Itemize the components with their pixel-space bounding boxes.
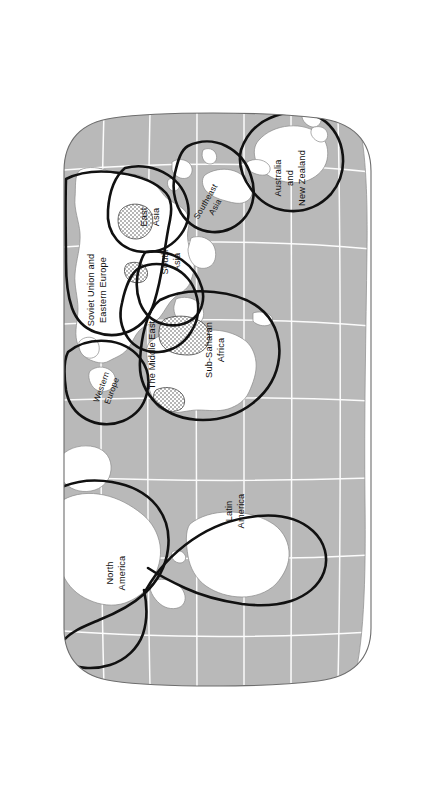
label-line: North xyxy=(105,561,115,584)
world-regions-map-figure: Soviet Union and Eastern Europe East Asi… xyxy=(0,0,437,799)
label-line: New Zealand xyxy=(297,150,307,206)
label-line: America xyxy=(117,555,127,590)
label-line: Asia xyxy=(151,207,161,226)
label-line: America xyxy=(236,493,246,528)
label-line: and xyxy=(285,170,295,186)
label-line: Soviet Union and xyxy=(86,254,96,326)
label-line: South xyxy=(160,250,170,275)
stipple-sahara xyxy=(159,316,210,355)
label-the-middle-east: The Middle East xyxy=(147,320,157,389)
label-line: The Middle East xyxy=(147,320,157,389)
label-line: Eastern Europe xyxy=(98,257,108,323)
label-line: Sub-Saharan xyxy=(204,322,214,378)
label-line: Asia xyxy=(172,252,182,271)
label-line: Australia xyxy=(273,159,283,197)
label-line: Africa xyxy=(216,337,226,362)
label-line: East xyxy=(139,207,149,226)
label-line: Latin xyxy=(224,501,234,522)
world-map-svg: Soviet Union and Eastern Europe East Asi… xyxy=(0,0,437,799)
